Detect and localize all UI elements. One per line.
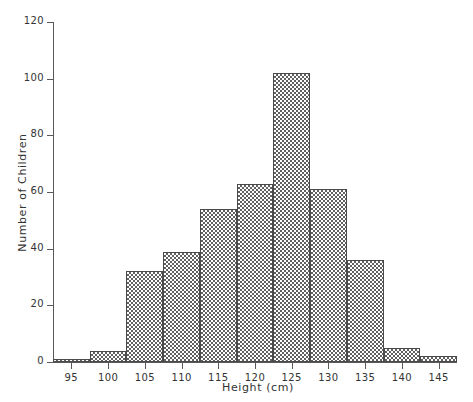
- y-tick-mark: [47, 135, 53, 136]
- y-tick-label: 0: [37, 355, 44, 366]
- histogram-bar: [126, 271, 163, 362]
- x-tick-label: 135: [355, 372, 375, 383]
- histogram-bar: [237, 184, 274, 363]
- histogram-bar: [273, 73, 310, 362]
- x-tick-mark: [439, 363, 440, 369]
- histogram-bar: [53, 359, 90, 362]
- histogram-bar: [200, 209, 237, 362]
- y-axis-line: [53, 22, 54, 362]
- x-tick-mark: [365, 363, 366, 369]
- x-tick-mark: [108, 363, 109, 369]
- x-tick-mark: [218, 363, 219, 369]
- y-axis-title: Number of Children: [16, 93, 29, 293]
- histogram-bar: [384, 348, 421, 362]
- x-tick-label: 115: [208, 372, 228, 383]
- y-tick-label: 40: [30, 242, 44, 253]
- x-tick-mark: [182, 363, 183, 369]
- x-tick-label: 105: [135, 372, 155, 383]
- y-tick-mark: [47, 79, 53, 80]
- x-tick-label: 125: [282, 372, 302, 383]
- x-tick-label: 95: [65, 372, 79, 383]
- y-tick-mark: [47, 305, 53, 306]
- x-tick-label: 145: [428, 372, 448, 383]
- x-tick-mark: [145, 363, 146, 369]
- x-tick-label: 120: [245, 372, 265, 383]
- x-tick-mark: [255, 363, 256, 369]
- x-tick-label: 130: [318, 372, 338, 383]
- x-tick-mark: [71, 363, 72, 369]
- y-tick-label: 120: [24, 15, 44, 26]
- x-tick-label: 110: [171, 372, 191, 383]
- histogram-bar: [310, 189, 347, 362]
- x-tick-mark: [402, 363, 403, 369]
- y-tick-mark: [47, 362, 53, 363]
- x-tick-label: 140: [392, 372, 412, 383]
- x-tick-label: 100: [98, 372, 118, 383]
- y-tick-mark: [47, 249, 53, 250]
- y-tick-mark: [47, 192, 53, 193]
- x-tick-mark: [292, 363, 293, 369]
- y-tick-mark: [47, 22, 53, 23]
- y-tick-label: 20: [30, 298, 44, 309]
- y-tick-label: 60: [30, 185, 44, 196]
- histogram-bar: [90, 351, 127, 362]
- plot-area: 020406080100120 951001051101151201251301…: [53, 22, 457, 362]
- x-tick-mark: [328, 363, 329, 369]
- histogram-figure: Number of Children Height (cm) 020406080…: [0, 0, 473, 402]
- histogram-bar: [163, 252, 200, 363]
- y-tick-label: 80: [30, 128, 44, 139]
- histogram-bar: [420, 356, 457, 362]
- histogram-bar: [347, 260, 384, 362]
- y-tick-label: 100: [24, 72, 44, 83]
